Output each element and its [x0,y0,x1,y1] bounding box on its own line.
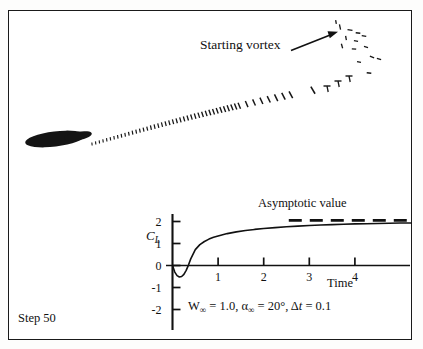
figure-graphics [0,0,423,349]
vortex-marker [194,114,196,119]
vortex-marker [180,117,181,122]
vortex-marker [227,105,229,111]
vortex-core-marker [339,24,340,29]
vortex-marker [289,91,293,98]
vortex-marker [139,129,140,133]
vortex-marker [128,132,129,136]
vortex-core-marker [346,36,347,40]
vortex-marker [260,98,263,104]
vortex-marker [132,131,133,135]
vortex-marker [245,101,248,107]
y-tick-label: 1 [146,238,162,250]
vortex-marker [125,133,126,137]
param-w-symbol: W [188,299,200,313]
vortex-marker [253,99,256,105]
vortex-marker [121,134,122,138]
vortex-marker [220,107,222,113]
vortex-marker [114,136,115,139]
vortex-marker [231,104,233,110]
vortex-marker [338,81,339,87]
vortex-marker [267,96,270,102]
vortex-marker [172,119,173,124]
y-tick-label: 0 [146,260,162,272]
vortex-marker [327,86,328,92]
starting-vortex-arrow [291,31,338,50]
vortex-marker [191,115,193,120]
vortex-marker [223,106,225,112]
vortex-marker [282,93,285,100]
starting-vortex-label: Starting vortex [200,38,281,52]
y-axis-ticks [173,222,181,310]
y-tick-label: -1 [146,282,162,294]
vortex-marker [216,108,218,114]
vortex-marker [150,125,151,129]
vortex-core-marker [348,30,353,31]
vortex-marker [234,104,236,110]
vortex-core-marker [357,62,361,63]
vortex-marker [183,116,184,121]
vortex-marker [274,94,277,101]
x-tick-label: 3 [299,271,319,283]
vortex-core-marker [341,44,342,48]
airfoil-shape [24,128,92,150]
x-tick-label: 2 [254,271,274,283]
vortex-core-marker [377,58,381,59]
vortex-marker [213,109,215,115]
x-axis-ticks [218,258,355,266]
asymptotic-value-label: Asymptotic value [258,197,347,210]
vortex-core-marker [354,41,358,42]
vortex-marker [198,113,200,118]
vortex-marker [169,120,170,125]
figure-root: Starting vortex Asymptotic value Step 50… [0,0,423,349]
vortex-marker [136,130,137,134]
y-tick-label: -2 [146,304,162,316]
x-tick-label: 4 [345,271,365,283]
vortex-core-marker [336,20,337,24]
vortex-marker [187,115,189,120]
vortex-marker [165,121,166,126]
vortex-marker [349,76,350,82]
vortex-marker [176,118,177,123]
vortex-core-marker [370,56,374,58]
vortex-marker [209,110,211,115]
param-delta-symbol: Δ [291,299,299,313]
vortex-marker [161,122,162,127]
lift-coefficient-curve [173,223,412,277]
vortex-marker [118,135,119,139]
vortex-core-marker [362,36,367,37]
param-delta-value: = 0.1 [302,299,331,313]
param-alpha-value: = 20°, [254,299,290,313]
vortex-marker [311,87,315,94]
starting-vortex-core-markers [336,20,381,73]
vortex-marker [238,103,240,109]
vortex-marker [202,112,204,117]
vortex-sheet-markers [92,76,353,145]
vortex-marker [143,128,144,132]
vortex-marker [154,124,155,128]
step-caption: Step 50 [18,312,56,325]
parameters-annotation: W∞ = 1.0, α∞ = 20°, Δt = 0.1 [188,300,331,315]
vortex-marker [205,111,207,116]
y-tick-label: 2 [146,216,162,228]
param-w-value: = 1.0, [206,299,241,313]
vortex-marker [147,127,148,131]
x-tick-label: 1 [208,271,228,283]
vortex-core-marker [364,46,368,47]
vortex-marker [158,123,159,127]
